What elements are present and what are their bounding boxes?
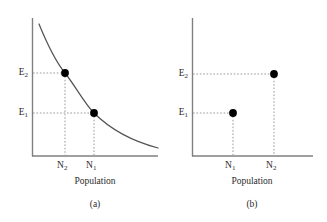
panel-b: E2 E1 N1 N2 Population (b) — [164, 0, 327, 222]
x-axis-title-b: Population — [182, 177, 322, 187]
y-tick-label-e1-a: E1 — [6, 108, 28, 118]
panel-caption-a: (a) — [25, 200, 165, 210]
demand-curve — [39, 24, 158, 148]
y-tick-label-e2-a: E2 — [6, 68, 28, 78]
y-tick-label-e1-b: E1 — [166, 108, 188, 118]
x-tick-label-n2-b: N2 — [266, 161, 276, 171]
panel-b-plot — [164, 0, 327, 222]
x-tick-label-n1-a: N1 — [86, 161, 96, 171]
panel-caption-b: (b) — [182, 200, 322, 210]
x-tick-label-n1-b: N1 — [225, 161, 235, 171]
point-E2-N2 — [270, 70, 278, 78]
x-axis-title-a: Population — [25, 177, 165, 187]
point-E1-N1 — [90, 109, 98, 117]
y-tick-label-e2-b: E2 — [166, 69, 188, 79]
x-tick-label-n2-a: N2 — [57, 161, 67, 171]
figure-root: E2 E1 N2 N1 Population (a) E2 E1 — [0, 0, 327, 222]
point-E2-N2 — [61, 69, 69, 77]
point-E1-N1 — [229, 109, 237, 117]
panel-a: E2 E1 N2 N1 Population (a) — [0, 0, 163, 222]
